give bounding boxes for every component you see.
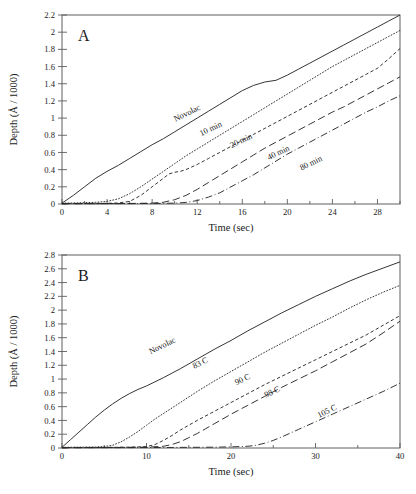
y-axis-title: Depth (Å / 1000) — [8, 315, 20, 388]
curve-label: Novolac — [172, 103, 202, 124]
y-tick-label: 1.6 — [44, 62, 55, 72]
y-tick-label: 0.2 — [44, 429, 55, 439]
curve-novolac — [62, 15, 400, 203]
y-tick-label: 1 — [51, 374, 55, 384]
y-tick-label: 0 — [51, 443, 55, 453]
y-tick-label: 1.8 — [44, 319, 55, 329]
curve-label: Novolac — [148, 335, 178, 356]
y-axis-title: Depth (Å / 1000) — [8, 73, 20, 146]
x-tick-label: 0 — [60, 451, 64, 461]
curve-label: 90 C — [233, 372, 252, 387]
panel-letter: B — [78, 267, 89, 284]
x-axis-title: Time (sec) — [209, 222, 254, 234]
x-tick-label: 8 — [150, 207, 154, 217]
x-tick-label: 0 — [60, 207, 64, 217]
chart-panel-a: 048121620242800.20.40.60.811.21.41.61.82… — [0, 0, 416, 240]
curve-83-c — [62, 285, 400, 447]
figure-container: 048121620242800.20.40.60.811.21.41.61.82… — [0, 0, 416, 494]
curve-label: 20 min — [229, 131, 255, 150]
x-tick-label: 10 — [142, 451, 151, 461]
y-tick-label: 2 — [51, 305, 55, 315]
y-tick-label: 1 — [51, 113, 55, 123]
y-tick-label: 2.2 — [44, 291, 55, 301]
x-axis-title: Time (sec) — [209, 466, 254, 478]
y-tick-label: 1.4 — [44, 347, 55, 357]
y-tick-label: 0.6 — [44, 148, 55, 158]
x-tick-label: 12 — [193, 207, 202, 217]
y-tick-label: 2 — [51, 27, 55, 37]
y-tick-label: 1.2 — [44, 96, 55, 106]
y-tick-label: 2.4 — [44, 278, 55, 288]
x-tick-label: 16 — [238, 207, 247, 217]
y-tick-label: 0 — [51, 199, 55, 209]
y-tick-label: 0.2 — [44, 182, 55, 192]
y-tick-label: 2.2 — [44, 10, 55, 20]
y-tick-label: 0.4 — [44, 416, 55, 426]
cropped-caption-strip — [0, 487, 416, 494]
y-tick-label: 0.8 — [44, 388, 55, 398]
panel-letter: A — [78, 27, 90, 44]
y-tick-label: 1.8 — [44, 44, 55, 54]
x-tick-label: 20 — [227, 451, 236, 461]
x-tick-label: 4 — [105, 207, 110, 217]
y-tick-label: 2.8 — [44, 250, 55, 260]
y-tick-label: 2.6 — [44, 264, 55, 274]
panel-a-plot: 048121620242800.20.40.60.811.21.41.61.82… — [0, 0, 416, 240]
curve-label: 83 C — [191, 355, 210, 370]
y-tick-label: 1.6 — [44, 333, 55, 343]
y-tick-label: 1.2 — [44, 360, 55, 370]
x-tick-label: 24 — [328, 207, 337, 217]
x-tick-label: 40 — [396, 451, 405, 461]
panel-b-plot: 01020304000.20.40.60.811.21.41.61.822.22… — [0, 240, 416, 494]
curve-90-c — [62, 316, 400, 448]
curve-10-min — [62, 30, 400, 203]
curve-label: 80 min — [298, 154, 324, 173]
curve-20-min — [62, 49, 400, 204]
y-tick-label: 0.8 — [44, 130, 55, 140]
chart-panel-b: 01020304000.20.40.60.811.21.41.61.822.22… — [0, 240, 416, 494]
y-tick-label: 1.4 — [44, 79, 55, 89]
curve-label: 105 C — [316, 403, 339, 420]
curve-novolac — [62, 262, 400, 447]
y-tick-label: 0.4 — [44, 165, 55, 175]
curve-label: 98 C — [263, 384, 282, 399]
curve-80-min — [62, 96, 400, 204]
y-tick-label: 0.6 — [44, 402, 55, 412]
curve-105-c — [62, 383, 400, 448]
x-tick-label: 20 — [283, 207, 292, 217]
x-tick-label: 28 — [373, 207, 382, 217]
x-tick-label: 30 — [311, 451, 320, 461]
